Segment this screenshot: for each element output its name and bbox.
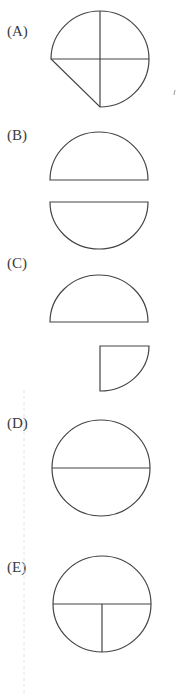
option-b-shape xyxy=(50,132,148,249)
upper-semicircle xyxy=(50,132,148,180)
stray-mark xyxy=(174,90,175,95)
upper-semicircle xyxy=(50,275,148,322)
option-e-shape xyxy=(53,556,151,652)
lower-semicircle xyxy=(50,202,148,249)
option-d-shape xyxy=(52,420,150,516)
figure-canvas xyxy=(0,0,177,695)
option-a-shape xyxy=(51,11,149,107)
quarter-circle xyxy=(100,346,149,391)
option-c-shape xyxy=(50,275,149,391)
